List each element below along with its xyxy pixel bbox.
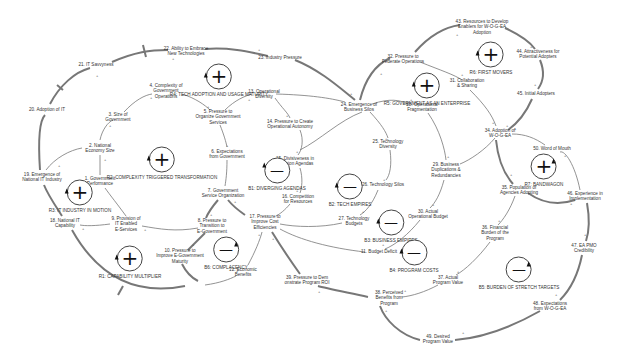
loop-r7-bandwagon: + R7: BANDWAGON <box>525 154 564 187</box>
svg-text:+: + <box>318 289 321 294</box>
link-50-34 <box>512 134 545 145</box>
link-45-34 <box>508 99 532 130</box>
svg-text:+: + <box>382 242 385 247</box>
balancing-loop-icon: — <box>265 159 289 183</box>
loop-label: R1: CAPABILITY MULTIPLIER <box>99 274 162 279</box>
link-20-21 <box>50 68 90 104</box>
link-47-48 <box>560 255 582 300</box>
variable-actual-program-value: 37. Actual Program Value <box>433 275 463 286</box>
link-14-15 <box>298 130 302 155</box>
variable-business-duplications: 29. Business Duplications & Redundancies <box>431 162 460 178</box>
svg-text:+: + <box>96 73 99 78</box>
loop-label: B5: BURDEN OF STRETCH TARGETS <box>479 285 560 290</box>
link-25-26 <box>386 150 391 180</box>
variable-adoption-of-it: 20. Adoption of IT <box>29 107 65 112</box>
delay-mark <box>118 286 123 295</box>
svg-text:+: + <box>258 47 261 52</box>
link-34-35 <box>496 140 513 184</box>
loop-label: R5: GOVERNMENT AS AN ENTERPRISE <box>384 101 470 106</box>
reinforcing-loop-icon: + <box>207 65 231 89</box>
svg-text:+: + <box>226 143 229 148</box>
loop-r3-it-industry: + R3: IT INDUSTRY IN MOTION <box>49 180 112 213</box>
link-32-43 <box>415 25 460 52</box>
variable-industry-pressure: 23. Industry Pressure <box>258 55 302 60</box>
svg-text:+: + <box>510 172 513 177</box>
variable-competition-resources: 16. Competition for Resources <box>282 194 314 205</box>
balancing-loop-icon: — <box>379 211 403 235</box>
variable-size-of-government: 3. Size of Government <box>105 112 130 123</box>
svg-text:+: + <box>109 123 112 128</box>
variable-pressure-demonstrate-roi: 39. Pressure to Dem onstrate Program ROI <box>285 275 330 286</box>
loop-label: R7: BANDWAGON <box>525 182 564 187</box>
variable-ea-pmo-credibility: 47. EA PMO Credibility <box>571 243 596 254</box>
loop-r2-complexity: + R2: COMPLEXITY TRIGGERED TRANSFORMATIO… <box>107 147 217 180</box>
link-11-17 <box>280 229 365 252</box>
variable-word-of-mouth: 50. Word of Mouth <box>533 146 571 151</box>
svg-text:+: + <box>404 288 407 293</box>
variable-pressure-transition-egov: 8. Pressure to Transition to E-Governmen… <box>197 218 227 234</box>
link-39-17 <box>272 232 300 274</box>
link-6-7 <box>225 160 227 186</box>
link-28-29 <box>428 113 446 160</box>
link-35-36 <box>498 196 515 225</box>
loop-label: B4: PROGRAM COSTS <box>389 268 438 273</box>
reinforcing-loop-icon: + <box>118 247 142 271</box>
variable-pressure-organize-services: 5. Pressure to Organize Government Servi… <box>195 109 240 125</box>
link-17-7 <box>228 200 245 215</box>
loop-label: R4: TECH ADOPTION AND USAGE MATURITY <box>170 92 268 97</box>
variable-adoption-wogea: 34. Adoption of W-O-G-EA <box>485 128 516 139</box>
loop-b4-program-costs: — B4: PROGRAM COSTS <box>389 240 438 273</box>
variable-financial-burden: 36. Financial Burden of the Program <box>481 225 509 241</box>
variable-pressure-egov-maturity: 10. Pressure to Improve E-Government Mat… <box>156 248 204 264</box>
variable-it-savvyness: 21. IT Savvyness <box>78 62 113 67</box>
link-21-22 <box>112 50 168 62</box>
svg-text:+: + <box>172 56 175 61</box>
link-10-13 <box>182 264 198 281</box>
loop-label: B2: TECH EMPIRES <box>329 202 372 207</box>
loop-r6-first-movers: + R6: FIRST MOVERS <box>470 42 513 75</box>
link-38-39 <box>318 286 368 297</box>
variable-government-service-organization: 7. Government Service Organization <box>202 188 245 199</box>
svg-text:+: + <box>534 82 537 87</box>
svg-text:+: + <box>82 226 85 231</box>
loop-r1-capability: + R1: CAPABILITY MULTIPLIER <box>99 246 162 279</box>
link-3-4 <box>124 94 152 112</box>
variable-experience-implementation: 46. Experience in Implementation <box>567 191 603 202</box>
link-19-2 <box>46 148 82 170</box>
link-9-18 <box>80 224 110 226</box>
variable-perceived-benefits: 38. Perceived Benefits from Program <box>375 290 403 306</box>
link-48-49 <box>455 311 540 340</box>
svg-text:+: + <box>380 71 383 76</box>
link-46-47 <box>586 203 589 241</box>
balancing-loop-icon: — <box>338 175 362 199</box>
svg-text:+: + <box>58 163 61 168</box>
svg-text:+: + <box>383 177 386 182</box>
svg-text:+: + <box>447 154 450 159</box>
variable-technology-diversity: 25. Technology Diversity <box>373 139 404 150</box>
causal-loop-diagram: + + + + + + + + + + + + + + + + + + + + … <box>0 0 620 359</box>
variable-desired-program-value: 49. Desired Program Value <box>423 334 453 345</box>
loop-label: R3: IT INDUSTRY IN MOTION <box>49 208 112 213</box>
svg-text:+: + <box>296 149 299 154</box>
loop-label: R6: FIRST MOVERS <box>470 70 513 75</box>
variable-resources-develop-enablers: 43. Resources to Develop Enablers for W-… <box>456 19 509 35</box>
reinforcing-loop-icon: + <box>150 148 174 172</box>
loop-r5-government-enterprise: + R5: GOVERNMENT AS AN ENTERPRISE <box>384 73 470 106</box>
variable-pressure-operational-autonomy: 14. Pressure to Create Operational Auton… <box>267 119 313 130</box>
balancing-loop-icon: — <box>402 241 426 265</box>
loop-b3-business-empires: — B3: BUSINESS EMPIRES <box>364 210 417 243</box>
variable-expectations-wogea: 48. Expectations from W-O-G-EA <box>533 301 567 312</box>
link-37-38 <box>402 285 438 297</box>
link-19-20 <box>39 115 45 170</box>
loop-label: R2: COMPLEXITY TRIGGERED TRANSFORMATION <box>107 175 217 180</box>
loop-b2-tech-empires: — B2: TECH EMPIRES <box>329 174 372 207</box>
svg-text:+: + <box>462 330 465 335</box>
variable-emergence-business-silos: 24. Emergence of Business Silos <box>341 102 377 113</box>
reinforcing-loop-icon: + <box>415 74 439 98</box>
link-24-25 <box>370 112 388 138</box>
loop-b1-diverging-agendas: — B1: DIVERGING AGENDAS <box>248 158 305 191</box>
svg-text:+: + <box>210 212 213 217</box>
svg-text:+: + <box>555 292 558 297</box>
loop-label: B6: COMPLACENCY <box>204 265 248 270</box>
loop-label: B1: DIVERGING AGENDAS <box>248 186 305 191</box>
